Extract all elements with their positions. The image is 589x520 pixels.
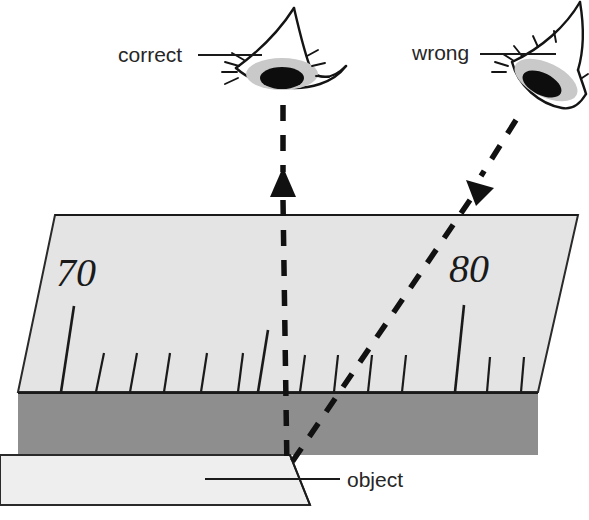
parallax-diagram: 70 80 object: [0, 0, 589, 520]
diagram-canvas: 70 80 object: [0, 0, 589, 520]
correct-label: correct: [118, 43, 182, 66]
ruler-group: 70 80: [18, 215, 578, 455]
wrong-sightline-upper-dashes: [481, 120, 516, 176]
eye-lid-tail-right: [578, 70, 586, 94]
correct-arrow-head: [270, 167, 296, 197]
scale-number-80: 80: [449, 246, 489, 291]
wrong-label: wrong: [411, 41, 469, 64]
scale-number-70: 70: [56, 250, 96, 295]
correct-label-group: correct: [118, 43, 262, 66]
object-label: object: [347, 468, 403, 491]
eye-looking-down-left-icon: [492, 2, 588, 110]
eye-looking-down-icon: [222, 8, 346, 90]
eye-pupil: [260, 67, 304, 89]
eye-outer-lid-right: [578, 2, 583, 70]
ruler-dark-band: [18, 394, 538, 455]
